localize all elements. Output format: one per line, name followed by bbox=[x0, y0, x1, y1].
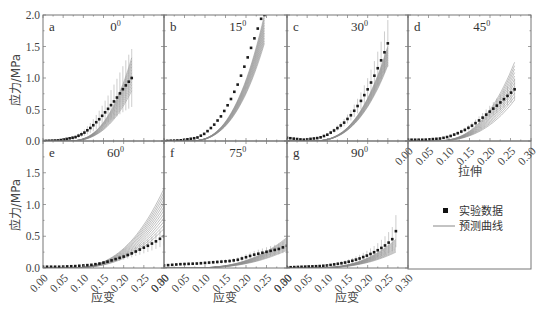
data-point bbox=[114, 258, 117, 261]
y-tick-label: 1.0 bbox=[26, 72, 41, 84]
panel-letter: b bbox=[170, 19, 177, 34]
data-point bbox=[380, 59, 383, 62]
data-point bbox=[387, 241, 390, 244]
data-point bbox=[89, 127, 92, 130]
data-point bbox=[347, 260, 350, 263]
data-point bbox=[86, 129, 89, 132]
data-point bbox=[179, 263, 182, 266]
data-point bbox=[159, 237, 162, 240]
panel-f: f7500.000.050.100.150.200.250.30 bbox=[148, 141, 294, 294]
data-point bbox=[216, 119, 219, 122]
data-point bbox=[358, 257, 361, 260]
panel-letter: a bbox=[49, 19, 55, 34]
data-point bbox=[226, 104, 229, 107]
data-point bbox=[449, 135, 452, 138]
data-point bbox=[319, 136, 322, 139]
x-axis-title-f: 应变 bbox=[213, 290, 237, 305]
x-tick-label: 0.30 bbox=[515, 144, 538, 167]
panel-letter: g bbox=[293, 145, 300, 160]
data-point bbox=[147, 244, 150, 247]
data-point bbox=[65, 138, 68, 141]
data-point bbox=[94, 263, 97, 266]
data-point bbox=[125, 84, 128, 87]
data-point bbox=[213, 123, 216, 126]
x-tick-label: 0.05 bbox=[169, 271, 192, 294]
data-point bbox=[383, 51, 386, 54]
x-tick-label: 0.05 bbox=[292, 271, 315, 294]
panels-group: a000.00.51.01.52.0b150c300d4500.000.050.… bbox=[26, 9, 539, 294]
data-point bbox=[363, 94, 366, 97]
data-point bbox=[228, 260, 231, 263]
data-point bbox=[318, 265, 321, 268]
data-point bbox=[102, 261, 105, 264]
data-point bbox=[311, 265, 314, 268]
data-point bbox=[189, 137, 192, 140]
data-point bbox=[460, 130, 463, 133]
panel-c: c300 bbox=[286, 15, 408, 141]
panel-angle: 750 bbox=[229, 145, 246, 160]
data-point bbox=[223, 110, 226, 113]
data-point bbox=[167, 264, 170, 267]
data-point bbox=[329, 131, 332, 134]
data-point bbox=[216, 261, 219, 264]
panel-letter: c bbox=[293, 19, 299, 34]
data-point bbox=[90, 264, 93, 267]
y-tick-label: 0.5 bbox=[26, 230, 41, 242]
data-point bbox=[139, 248, 142, 251]
data-point bbox=[74, 136, 77, 139]
data-point bbox=[245, 256, 248, 259]
panel-frame bbox=[43, 141, 164, 268]
data-point bbox=[366, 254, 369, 257]
panel-letter: d bbox=[414, 19, 421, 34]
data-point bbox=[183, 263, 186, 266]
data-point bbox=[130, 77, 133, 80]
data-point bbox=[488, 110, 491, 113]
data-point bbox=[261, 251, 264, 254]
data-point bbox=[355, 258, 358, 261]
y-tick-label: 1.5 bbox=[26, 41, 41, 53]
x-tick-label: 0.10 bbox=[189, 271, 212, 294]
data-point bbox=[175, 263, 178, 266]
data-point bbox=[395, 230, 398, 233]
data-point bbox=[307, 265, 310, 268]
data-point bbox=[289, 137, 292, 140]
x-tick-label: 0.25 bbox=[251, 271, 274, 294]
x-tick-label: 0.20 bbox=[474, 144, 497, 167]
legend-data-marker bbox=[443, 208, 448, 213]
data-point bbox=[66, 265, 69, 268]
data-point bbox=[208, 261, 211, 264]
data-point bbox=[339, 124, 342, 127]
data-point bbox=[62, 138, 65, 141]
data-point bbox=[200, 262, 203, 265]
data-point bbox=[333, 129, 336, 132]
data-point bbox=[193, 137, 196, 140]
data-point bbox=[86, 264, 89, 267]
data-point bbox=[236, 83, 239, 86]
data-point bbox=[155, 240, 158, 243]
panel-frame bbox=[164, 141, 287, 268]
data-point bbox=[373, 74, 376, 77]
data-point bbox=[485, 113, 488, 116]
data-point bbox=[143, 246, 146, 249]
data-point bbox=[387, 42, 390, 45]
data-point bbox=[232, 259, 235, 262]
panel-angle: 600 bbox=[107, 145, 124, 160]
data-point bbox=[187, 263, 190, 266]
data-point bbox=[503, 98, 506, 101]
data-point bbox=[113, 100, 116, 103]
prediction-curve bbox=[164, 41, 264, 141]
data-point bbox=[346, 118, 349, 121]
data-point bbox=[336, 127, 339, 130]
data-point bbox=[513, 88, 516, 91]
data-point bbox=[240, 74, 243, 77]
data-point bbox=[337, 263, 340, 266]
data-point bbox=[118, 257, 121, 260]
data-point bbox=[380, 247, 383, 250]
data-point bbox=[116, 96, 119, 99]
data-point bbox=[70, 265, 73, 268]
y-tick-label: 1.0 bbox=[26, 199, 41, 211]
data-point bbox=[453, 133, 456, 136]
data-point bbox=[110, 259, 113, 262]
y-axis-title-top: 应力/MPa bbox=[8, 54, 23, 106]
data-point bbox=[322, 264, 325, 267]
